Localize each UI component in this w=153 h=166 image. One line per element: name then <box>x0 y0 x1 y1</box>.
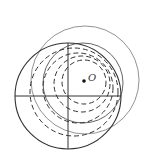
point-o-label: O <box>88 73 96 83</box>
point-o <box>82 79 86 83</box>
middle-circle <box>43 43 123 123</box>
dashed-circle-3 <box>43 53 113 123</box>
diagram-canvas <box>0 0 153 166</box>
